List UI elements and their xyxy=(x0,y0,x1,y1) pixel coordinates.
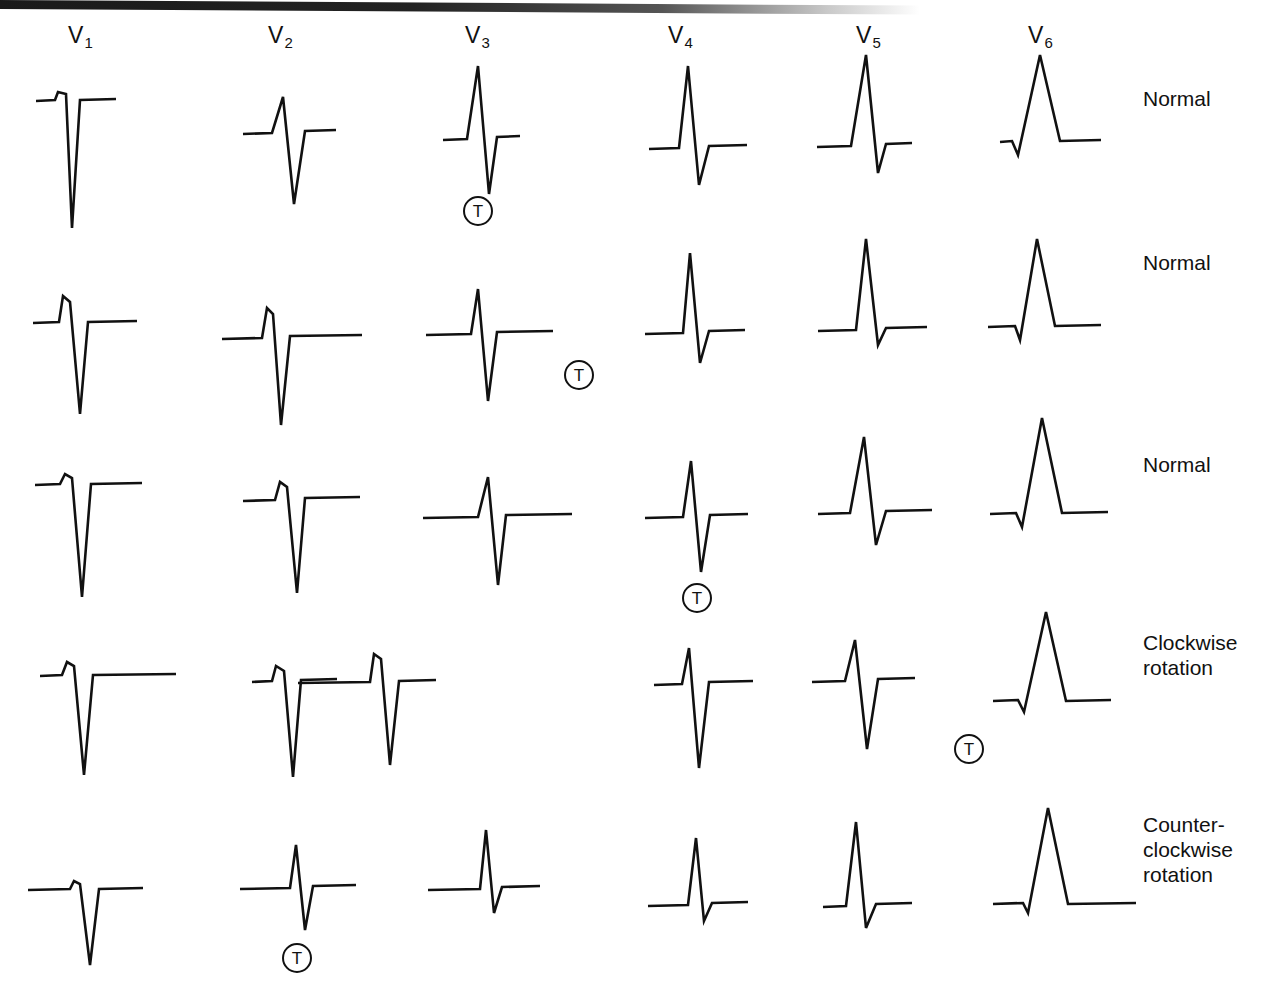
column-header-letter: V xyxy=(268,22,284,48)
row-label-1: Normal xyxy=(1143,86,1211,111)
row-label-5: Counter- clockwise rotation xyxy=(1143,812,1233,887)
ecg-trace-row3-v5 xyxy=(818,437,932,545)
ecg-trace-row3-v2 xyxy=(243,482,360,593)
column-header-v6: V6 xyxy=(1028,22,1052,49)
column-header-v2: V2 xyxy=(268,22,292,49)
ecg-trace-row2-v6 xyxy=(988,239,1101,340)
ecg-trace-row2-v5 xyxy=(818,239,927,345)
ecg-trace-row2-v4 xyxy=(645,253,745,363)
ecg-trace-row2-v2 xyxy=(222,308,362,425)
transition-marker-row3-v4: T xyxy=(682,583,712,613)
transition-marker-row4-v5: T xyxy=(954,734,984,764)
column-header-letter: V xyxy=(68,22,84,48)
ecg-figure: V1V2V3V4V5V6 NormalNormalNormalClockwise… xyxy=(0,0,1268,983)
ecg-trace-row4-v6 xyxy=(993,612,1111,712)
ecg-trace-row1-v6 xyxy=(1000,55,1101,155)
column-header-letter: V xyxy=(465,22,481,48)
column-header-subscript: 3 xyxy=(482,34,491,51)
column-header-v5: V5 xyxy=(856,22,880,49)
transition-marker-label: T xyxy=(292,950,302,967)
column-header-v3: V3 xyxy=(465,22,489,49)
row-label-3: Normal xyxy=(1143,452,1211,477)
ecg-trace-row3-v6 xyxy=(990,418,1108,527)
ecg-trace-row1-v2 xyxy=(243,97,336,204)
column-header-subscript: 2 xyxy=(285,34,294,51)
column-header-letter: V xyxy=(856,22,872,48)
ecg-trace-row5-v5 xyxy=(823,822,912,928)
transition-marker-label: T xyxy=(964,741,974,758)
column-header-subscript: 6 xyxy=(1045,34,1054,51)
ecg-trace-row5-v2 xyxy=(240,845,356,930)
ecg-traces-svg xyxy=(0,0,1268,983)
transition-marker-row1-v3: T xyxy=(463,196,493,226)
transition-marker-row2-v3: T xyxy=(564,360,594,390)
column-header-v4: V4 xyxy=(668,22,692,49)
column-header-v1: V1 xyxy=(68,22,92,49)
ecg-trace-row2-v3 xyxy=(426,289,553,401)
ecg-trace-row1-v5 xyxy=(817,55,912,173)
ecg-trace-row1-v1 xyxy=(36,92,116,228)
ecg-trace-row3-v3 xyxy=(423,477,572,585)
transition-marker-row5-v2: T xyxy=(282,943,312,973)
ecg-trace-row4-v4 xyxy=(654,648,753,768)
transition-marker-label: T xyxy=(574,367,584,384)
column-header-subscript: 5 xyxy=(873,34,882,51)
ecg-trace-row1-v3 xyxy=(443,66,520,194)
transition-marker-label: T xyxy=(692,590,702,607)
ecg-trace-row5-v4 xyxy=(648,838,748,921)
ecg-trace-row4-v5 xyxy=(812,640,915,749)
transition-marker-label: T xyxy=(473,203,483,220)
ecg-trace-row3-v4 xyxy=(645,461,748,572)
ecg-trace-row3-v1 xyxy=(35,474,142,597)
ecg-trace-row2-v1 xyxy=(33,296,137,414)
row-label-2: Normal xyxy=(1143,250,1211,275)
column-header-subscript: 1 xyxy=(85,34,94,51)
ecg-trace-row5-v6 xyxy=(993,808,1136,913)
column-header-letter: V xyxy=(1028,22,1044,48)
ecg-trace-row4-v3 xyxy=(298,654,436,765)
ecg-trace-row5-v3 xyxy=(428,830,540,913)
ecg-trace-row5-v1 xyxy=(28,881,143,965)
column-header-letter: V xyxy=(668,22,684,48)
column-header-subscript: 4 xyxy=(685,34,694,51)
row-label-4: Clockwise rotation xyxy=(1143,630,1238,680)
ecg-trace-row1-v4 xyxy=(649,66,747,185)
ecg-trace-row4-v1 xyxy=(40,662,176,775)
